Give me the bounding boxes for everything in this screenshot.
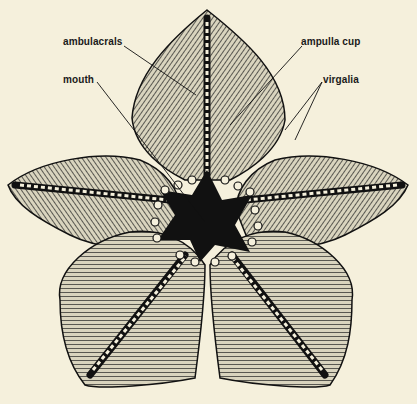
label-mouth: mouth bbox=[63, 74, 94, 85]
starfish-illustration bbox=[0, 0, 417, 404]
label-ampulla-cup: ampulla cup bbox=[301, 36, 360, 47]
label-virgalia: virgalia bbox=[323, 74, 359, 85]
starfish-diagram: ambulacrals ampulla cup mouth virgalia bbox=[0, 0, 417, 404]
label-ambulacrals: ambulacrals bbox=[63, 36, 122, 47]
